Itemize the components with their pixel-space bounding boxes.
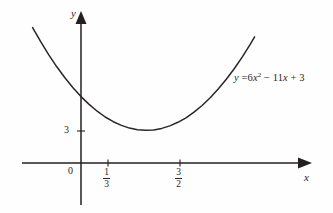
y-axis-label: y [71,8,76,19]
equation-plus-sign: + [291,72,297,83]
root-one-denominator: 3 [103,180,110,190]
origin-label: 0 [68,166,73,176]
parabola-curve [33,28,255,131]
plot-canvas [0,0,333,213]
equation-lhs: y [234,72,239,83]
root-two-denominator: 2 [175,180,182,190]
equation-exponent: 2 [258,71,262,79]
x-axis-arrowhead [298,158,312,169]
equation-constant: 3 [299,72,304,83]
equation-coef-linear: 11 [273,72,283,83]
root-two-fraction-label: 3 2 [175,168,182,190]
root-two-numerator: 3 [175,168,182,178]
quadratic-graph-figure: y x 0 3 1 3 3 2 y =6x2 − 11x + 3 [0,0,333,213]
y-axis-arrowhead [76,11,87,24]
equation-var-linear: x [283,72,288,83]
root-one-fraction-label: 1 3 [103,168,110,190]
root-one-numerator: 1 [103,168,110,178]
y-intercept-label: 3 [64,125,69,135]
equation-minus-sign: − [264,72,270,83]
x-axis-label: x [304,172,309,183]
equation-annotation: y =6x2 − 11x + 3 [234,73,305,84]
